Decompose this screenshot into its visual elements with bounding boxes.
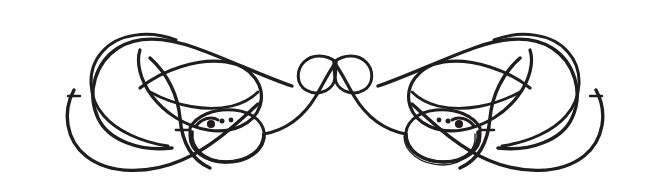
flourish-ornament-canvas: Decorative Calligraphic Flourish Ornamen… bbox=[0, 0, 670, 182]
right-eye-large-dot bbox=[455, 120, 463, 128]
right-eye-small-dot-1 bbox=[446, 119, 451, 124]
left-eye-small-dot-1 bbox=[220, 119, 225, 124]
left-eye-small-dot-2 bbox=[229, 118, 234, 123]
canvas-background bbox=[0, 0, 670, 182]
left-eye-large-dot bbox=[207, 120, 215, 128]
right-eye-small-dot-2 bbox=[437, 118, 442, 123]
